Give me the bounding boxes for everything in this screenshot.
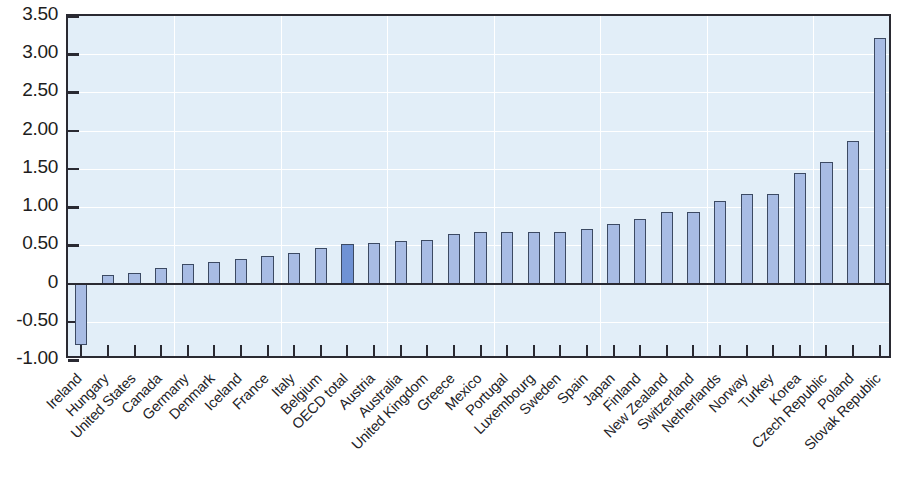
y-axis-tick [68,53,79,56]
x-axis-tick [639,345,641,356]
x-axis-tick [719,345,721,356]
bar [847,141,859,283]
bar [208,262,220,283]
y-axis-tick-label: 1.50 [4,156,58,178]
x-axis-tick [772,345,774,356]
bar [182,264,194,283]
y-axis-tick-label: 3.00 [4,41,58,63]
x-axis-tick [400,345,402,356]
bar [820,162,832,284]
gridline-vertical [387,16,388,356]
gridline-horizontal [68,169,889,170]
gridline-vertical [281,16,282,356]
x-axis-tick [134,345,136,356]
x-axis-tick [879,345,881,356]
bar [261,256,273,284]
bar [687,212,699,284]
gridline-horizontal [68,131,889,132]
bar [661,212,673,283]
bar [714,201,726,284]
bar [315,248,327,283]
x-axis-tick [799,345,801,356]
bar [368,243,380,284]
x-axis-tick [293,345,295,356]
bar [421,240,433,284]
gridline-horizontal [68,54,889,55]
x-axis-tick [240,345,242,356]
x-axis-tick [746,345,748,356]
x-axis-tick [852,345,854,356]
x-axis-tick [559,345,561,356]
y-axis-tick-label: 2.00 [4,118,58,140]
gridline-vertical [707,16,708,356]
x-axis-tick [320,345,322,356]
chart-figure: 3.503.002.502.001.501.000.500-0.50-1.00 … [0,0,899,483]
gridline-horizontal [68,92,889,93]
x-axis-tick [825,345,827,356]
x-axis-tick [267,345,269,356]
bar [155,268,167,283]
x-axis-tick [373,345,375,356]
y-axis-tick-label: 1.00 [4,194,58,216]
x-axis-tick [213,345,215,356]
y-axis-tick [68,91,79,94]
x-axis-tick [666,345,668,356]
plot-area [66,14,891,358]
y-axis-tick-label: 0 [4,271,58,293]
bar [767,194,779,283]
bar [607,224,619,284]
bar [341,244,353,284]
x-axis-tick [453,345,455,356]
gridline-vertical [174,16,175,356]
bar [634,219,646,284]
y-axis-tick [68,15,79,18]
y-axis-tick [68,130,79,133]
gridline-vertical [600,16,601,356]
x-axis-tick [506,345,508,356]
y-axis-tick-label: -0.50 [4,309,58,331]
bar [448,234,460,284]
bar [501,232,513,284]
bar [395,241,407,284]
x-axis-tick [187,345,189,356]
bar [288,253,300,284]
bar [741,194,753,283]
x-axis-category-labels: IrelandHungaryUnited StatesCanadaGermany… [0,358,899,483]
bar [794,173,806,284]
x-axis-tick [160,345,162,356]
x-axis-tick [80,345,82,356]
bar [874,38,886,283]
zero-baseline [68,283,889,286]
gridline-vertical [494,16,495,356]
y-axis-tick-label: 2.50 [4,79,58,101]
x-axis-tick [692,345,694,356]
x-axis-tick [480,345,482,356]
bar [235,259,247,283]
gridline-horizontal [68,322,889,323]
x-axis-tick [426,345,428,356]
bar [474,232,486,284]
bar [75,284,87,346]
x-axis-tick [586,345,588,356]
x-axis-tick [533,345,535,356]
x-axis-tick [613,345,615,356]
bar [528,232,540,284]
y-axis-tick [68,168,79,171]
x-axis-tick [346,345,348,356]
gridline-vertical [813,16,814,356]
y-axis-tick-label: 0.50 [4,232,58,254]
gridline-horizontal [68,207,889,208]
y-axis-tick-label: 3.50 [4,3,58,25]
bar [554,232,566,284]
y-axis-tick [68,206,79,209]
bar [581,229,593,283]
y-axis-tick [68,244,79,247]
x-axis-tick [107,345,109,356]
